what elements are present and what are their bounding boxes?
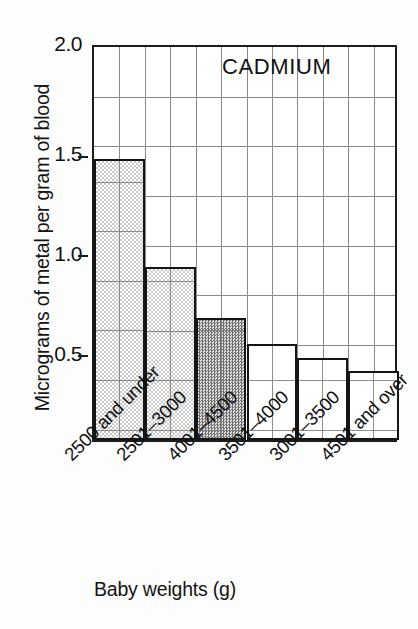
y-tick-mark-1 [78,255,88,257]
y-tick-label-0_5: 0.5 [36,342,82,366]
y-tick-label-1_5: 1.5 [36,142,82,166]
y-axis-ticks: 2.0 1.5 1.0 0.5 [30,0,82,629]
x-axis-label: Baby weights (g) [0,578,330,601]
chart-title: CADMIUM [222,54,331,80]
y-tick-label-1: 1.0 [36,242,82,266]
y-tick-mark-0_5 [78,355,88,357]
y-tick-mark-1_5 [78,156,88,158]
y-tick-label-2: 2.0 [36,32,82,56]
chart-figure: Micrograms of metal per gram of blood 2.… [0,0,418,629]
